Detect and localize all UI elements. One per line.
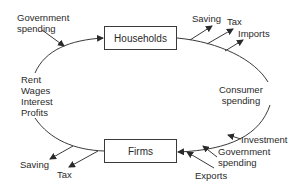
tax-leakage-label: Tax — [227, 16, 242, 27]
consumer-spending-arc-upper — [177, 38, 268, 82]
gov-spending-household-label: Government spending — [17, 12, 69, 34]
gov-spending-firm-injection-label: Government spending — [218, 146, 270, 168]
firms-node: Firms — [104, 139, 177, 163]
saving-leakage-arrow — [190, 26, 212, 40]
firms-label: Firms — [128, 146, 153, 157]
firm-saving-leakage-arrow — [50, 146, 73, 159]
consumer-spending-label: Consumer spending — [219, 84, 263, 106]
firm-tax-leakage-label: Tax — [57, 169, 72, 180]
investment-injection-label: Investment — [241, 134, 287, 145]
investment-injection-arrow — [228, 135, 241, 139]
firm-saving-leakage-label: Saving — [20, 159, 49, 170]
households-label: Households — [114, 33, 167, 44]
tax-leakage-arrow — [207, 29, 233, 44]
imports-leakage-label: Imports — [238, 28, 270, 39]
factor-income-arc — [35, 38, 103, 73]
factor-income-arc-lower — [35, 118, 104, 151]
factor-income-label: Rent Wages Interest Profits — [21, 74, 53, 118]
firm-tax-leakage-arrow — [69, 151, 98, 167]
exports-injection-label: Exports — [195, 170, 227, 181]
exports-injection-arrow — [187, 152, 214, 168]
saving-leakage-label: Saving — [192, 13, 221, 24]
imports-leakage-arrow — [225, 40, 243, 51]
households-node: Households — [104, 26, 177, 50]
